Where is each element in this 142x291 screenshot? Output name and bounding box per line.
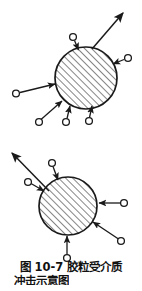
medium-molecule-icon [36,119,43,126]
top-impact-left [13,84,55,97]
colloid-particle-top [55,47,117,109]
medium-molecule-icon [70,34,77,41]
top-escape-arrow [92,13,123,49]
medium-molecule-icon [25,179,32,186]
medium-molecule-icon [49,160,56,167]
medium-molecule-icon [125,55,132,62]
medium-molecule-icon [121,200,128,207]
colloid-particle-bottom [39,177,97,235]
top-impact-lower-left [36,101,62,125]
medium-molecule-icon [118,238,125,245]
bottom-escape-arrow [12,153,49,191]
top-impact-bottom-left [63,106,70,125]
top-panel [13,13,132,125]
figure-caption-line-2-text: 冲击示意图 [14,274,69,285]
figure-10-7-diagram [0,0,142,291]
top-impact-right-upper [113,55,131,64]
bottom-panel [12,153,127,261]
bottom-impact-lower-right [93,222,124,244]
medium-molecule-icon [86,118,93,125]
bottom-impact-left-upper [25,179,44,191]
figure-caption-line-1: 图 10-7 胶粒受介质 [0,258,142,274]
medium-molecule-icon [63,119,70,126]
medium-molecule-icon [13,90,20,97]
bottom-impact-top [49,160,58,180]
bottom-impact-right [99,200,127,207]
figure-caption-line-2: 冲击示意图 [0,274,142,288]
